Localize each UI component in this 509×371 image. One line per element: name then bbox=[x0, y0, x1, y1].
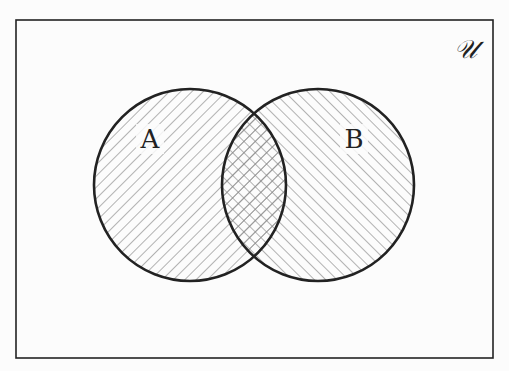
set-b-label: B bbox=[344, 124, 363, 154]
universe-label: 𝒰 bbox=[454, 34, 485, 64]
venn-diagram: A B 𝒰 bbox=[0, 0, 509, 371]
set-a-label: A bbox=[140, 124, 161, 154]
